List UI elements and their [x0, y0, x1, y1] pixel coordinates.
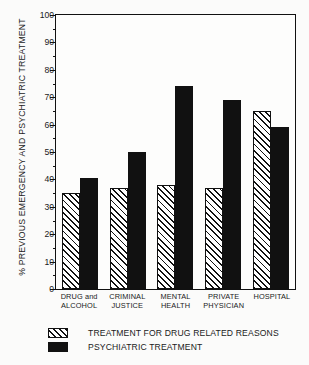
bar — [205, 188, 223, 289]
y-tick-label: 40 — [44, 174, 54, 184]
chart-legend: TREATMENT FOR DRUG RELATED REASONSPSYCHI… — [48, 326, 303, 354]
bar-group — [157, 15, 193, 289]
bar-group — [205, 15, 241, 289]
bar — [80, 178, 98, 289]
bar — [110, 188, 128, 289]
y-tick-label: 10 — [44, 257, 54, 267]
y-tick-label: 20 — [44, 229, 54, 239]
bar — [157, 185, 175, 289]
bar — [128, 152, 146, 289]
bar-group — [253, 15, 289, 289]
x-axis-label: DRUG and ALCOHOL — [55, 292, 103, 310]
bar — [253, 111, 271, 289]
legend-swatch — [48, 342, 68, 352]
y-tick-label: 50 — [44, 147, 54, 157]
legend-swatch — [48, 328, 68, 338]
y-tick-label: 30 — [44, 202, 54, 212]
y-tick-label: 0 — [49, 284, 54, 294]
bar — [271, 127, 289, 289]
bar — [223, 100, 241, 289]
x-axis-label: HOSPITAL — [248, 292, 296, 301]
x-axis-labels: DRUG and ALCOHOLCRIMINAL JUSTICEMENTAL H… — [55, 292, 296, 316]
bar-chart-figure: % PREVIOUS EMERGENCY AND PSYCHIATRIC TRE… — [0, 0, 309, 365]
bar — [62, 193, 80, 289]
plot-area: 0102030405060708090100 — [55, 14, 296, 290]
y-tick-label: 80 — [44, 65, 54, 75]
y-tick-label: 100 — [40, 10, 54, 20]
legend-label: PSYCHIATRIC TREATMENT — [88, 342, 202, 352]
bar — [175, 86, 193, 289]
bar-group — [62, 15, 98, 289]
x-axis-label: MENTAL HEALTH — [151, 292, 199, 310]
y-tick-label: 90 — [44, 37, 54, 47]
legend-item: PSYCHIATRIC TREATMENT — [48, 340, 303, 354]
y-tick-label: 60 — [44, 120, 54, 130]
x-axis-label: CRIMINAL JUSTICE — [103, 292, 151, 310]
legend-item: TREATMENT FOR DRUG RELATED REASONS — [48, 326, 303, 340]
bar-groups — [56, 15, 295, 289]
x-axis-label: PRIVATE PHYSICIAN — [200, 292, 248, 310]
legend-label: TREATMENT FOR DRUG RELATED REASONS — [88, 328, 279, 338]
y-axis-title: % PREVIOUS EMERGENCY AND PSYCHIATRIC TRE… — [17, 0, 27, 297]
y-tick-label: 70 — [44, 92, 54, 102]
bar-group — [110, 15, 146, 289]
